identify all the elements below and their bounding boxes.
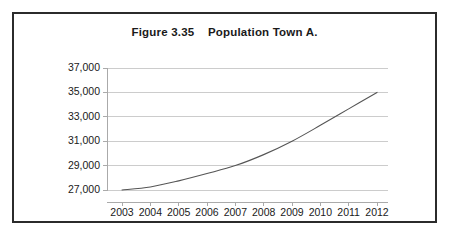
plot-area: 27,00029,00031,00033,00035,00037,000 200… (14, 14, 439, 225)
x-tick-label: 2007 (219, 206, 251, 218)
y-tick-label: 33,000 (68, 110, 100, 122)
y-tick-label: 35,000 (68, 85, 100, 97)
x-tick-label: 2006 (191, 206, 223, 218)
y-tick-label: 37,000 (68, 61, 100, 73)
x-tick-label: 2005 (163, 206, 195, 218)
x-tick-label: 2012 (361, 206, 393, 218)
x-tick-label: 2003 (106, 206, 138, 218)
x-tick-label: 2010 (304, 206, 336, 218)
x-tick-label: 2004 (134, 206, 166, 218)
y-tick-label: 29,000 (68, 159, 100, 171)
x-tick-label: 2008 (248, 206, 280, 218)
figure-frame: Figure 3.35 Population Town A. 27,00029,… (12, 12, 437, 223)
y-tick-label: 27,000 (68, 183, 100, 195)
x-tick-label: 2011 (333, 206, 365, 218)
x-tick-label: 2009 (276, 206, 308, 218)
y-tick-label: 31,000 (68, 134, 100, 146)
